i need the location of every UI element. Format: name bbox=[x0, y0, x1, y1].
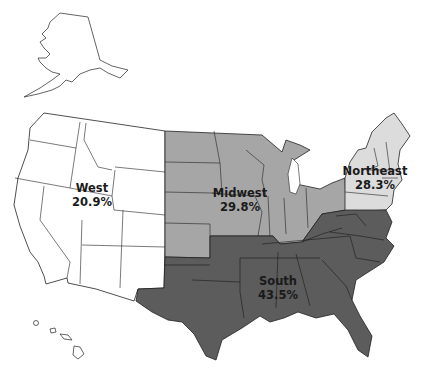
label-south: South 43.5% bbox=[258, 274, 298, 302]
hawaii-shape bbox=[34, 321, 85, 360]
west-name: West bbox=[72, 181, 112, 195]
south-name: South bbox=[258, 274, 298, 288]
label-midwest: Midwest 29.8% bbox=[213, 186, 267, 214]
label-northeast: Northeast 28.3% bbox=[343, 164, 408, 192]
alaska-shape bbox=[24, 13, 128, 97]
south-value: 43.5% bbox=[258, 288, 298, 302]
northeast-value: 28.3% bbox=[343, 178, 408, 192]
northeast-name: Northeast bbox=[343, 164, 408, 178]
midwest-name: Midwest bbox=[213, 186, 267, 200]
label-west: West 20.9% bbox=[72, 181, 112, 209]
midwest-value: 29.8% bbox=[213, 200, 267, 214]
west-value: 20.9% bbox=[72, 195, 112, 209]
